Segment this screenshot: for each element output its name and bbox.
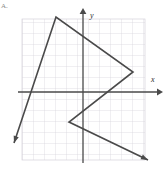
polyline-start-arrow-icon: [14, 136, 19, 143]
y-axis-label: y: [89, 11, 94, 20]
graph-figure: x y A.: [0, 0, 165, 174]
item-label: A.: [1, 2, 8, 10]
coordinate-plane-svg: x y A.: [0, 0, 165, 174]
y-axis-arrow-icon: [80, 8, 87, 14]
x-axis-label: x: [150, 75, 155, 84]
x-axis-arrow-icon: [157, 89, 163, 96]
